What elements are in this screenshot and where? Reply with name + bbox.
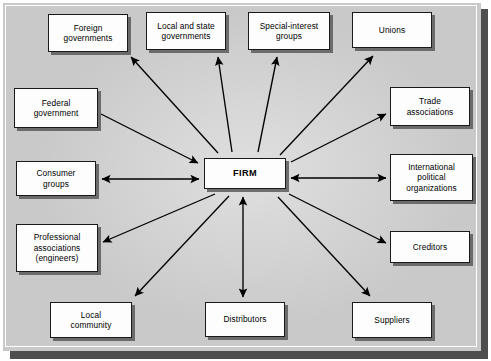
arrow-firm-to-special-interest-groups [258,57,277,152]
node-distributors[interactable]: Distributors [205,302,285,337]
node-trade-associations[interactable]: Tradeassociations [390,87,470,126]
arrow-firm-to-creditors [289,194,386,243]
arrow-firm-to-unions [280,56,373,155]
node-label: Professionalassociations(engineers) [34,232,81,264]
diagram-canvas: ForeigngovernmentsLocal and stategovernm… [0,0,491,361]
node-firm[interactable]: FIRM [204,158,286,189]
node-label: Creditors [413,242,447,253]
node-federal-government[interactable]: Federalgovernment [14,88,98,128]
node-international-political-organizations[interactable]: Internationalpoliticalorganizations [390,154,473,201]
node-label: Suppliers [374,315,409,326]
node-consumer-groups[interactable]: Consumergroups [16,161,96,196]
arrow-firm-to-foreign-governments [131,57,218,153]
node-label: Unions [379,25,405,36]
node-creditors[interactable]: Creditors [390,231,470,263]
node-label: Consumergroups [37,168,76,189]
node-label: Special-interestgroups [260,21,319,42]
node-label: FIRM [233,168,257,179]
node-label: Localcommunity [71,310,112,331]
node-label: Internationalpoliticalorganizations [406,162,456,194]
node-local-community[interactable]: Localcommunity [50,302,132,338]
node-special-interest-groups[interactable]: Special-interestgroups [248,12,330,50]
node-foreign-governments[interactable]: Foreigngovernments [48,14,128,52]
node-label: Foreigngovernments [64,23,113,44]
arrow-firm-to-professional-associations [103,194,215,242]
arrow-firm-to-trade-associations [291,114,386,162]
node-local-state-governments[interactable]: Local and stategovernments [146,12,226,50]
arrow-firm-to-federal-government [101,114,198,163]
arrow-firm-to-local-state-governments [218,57,232,152]
node-professional-associations[interactable]: Professionalassociations(engineers) [16,224,98,272]
arrow-firm-to-local-community [135,196,229,296]
node-unions[interactable]: Unions [352,12,432,48]
node-label: Tradeassociations [407,96,454,117]
node-label: Distributors [224,314,267,325]
node-label: Local and stategovernments [157,21,215,42]
node-suppliers[interactable]: Suppliers [352,302,432,338]
node-label: Federalgovernment [34,98,79,119]
